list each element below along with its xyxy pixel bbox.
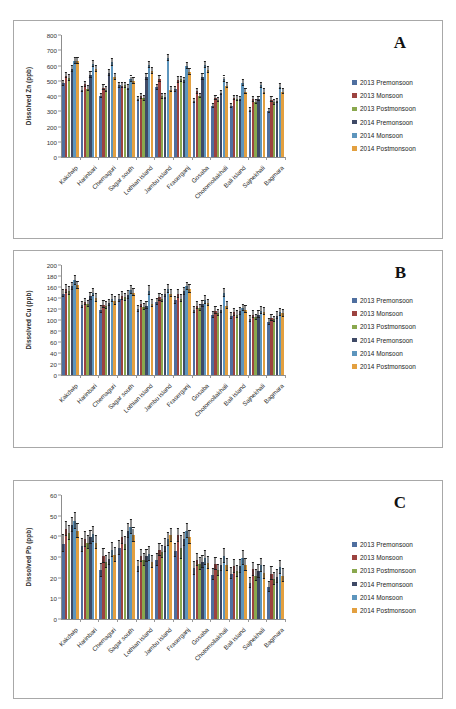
- legend-label: 2013 Postmonsoon: [360, 105, 416, 112]
- x-tick-mark: [117, 157, 118, 160]
- y-tick-label: 0: [31, 154, 57, 161]
- x-tick-mark: [98, 375, 99, 378]
- legend-item[interactable]: 2013 Monsoon: [352, 552, 416, 563]
- bar-b: [132, 293, 134, 376]
- bar-group: [229, 495, 248, 619]
- x-tick-mark: [98, 619, 99, 622]
- bar-group: [117, 495, 136, 619]
- error-cap-top: [132, 288, 134, 289]
- error-bar: [130, 520, 131, 534]
- legend-item[interactable]: 2014 Premonsoon: [352, 335, 416, 346]
- error-cap-bottom: [279, 573, 281, 574]
- y-tick-label: 140: [31, 295, 57, 302]
- legend-b: 2013 Premonsoon2013 Monsoon2013 Postmons…: [352, 295, 416, 374]
- error-cap-top: [170, 289, 172, 290]
- error-cap-top: [223, 288, 225, 289]
- error-cap-top: [76, 281, 78, 282]
- legend-item[interactable]: 2014 Monsoon: [352, 130, 416, 141]
- bar-a: [113, 77, 115, 157]
- error-cap-top: [270, 96, 272, 97]
- legend-item[interactable]: 2014 Postmonsoon: [352, 361, 416, 372]
- bar-a: [244, 92, 246, 157]
- legend-label: 2014 Postmonsoon: [360, 145, 416, 152]
- error-cap-top: [65, 72, 67, 73]
- x-tick-mark: [285, 375, 286, 378]
- legend-swatch-icon: [352, 364, 357, 369]
- error-cap-bottom: [244, 312, 246, 313]
- error-cap-top: [151, 67, 153, 68]
- error-cap-top: [223, 75, 225, 76]
- legend-item[interactable]: 2013 Premonsoon: [352, 539, 416, 550]
- error-cap-bottom: [263, 314, 265, 315]
- error-bar: [74, 513, 75, 529]
- error-cap-top: [185, 282, 187, 283]
- legend-item[interactable]: 2013 Premonsoon: [352, 77, 416, 88]
- error-cap-bottom: [95, 548, 97, 549]
- bar-group: [192, 495, 211, 619]
- bar-b: [207, 303, 209, 375]
- legend-item[interactable]: 2013 Postmonsoon: [352, 565, 416, 576]
- error-cap-top: [142, 303, 144, 304]
- bar-group: [173, 495, 192, 619]
- error-bar: [90, 531, 91, 545]
- error-cap-bottom: [170, 541, 172, 542]
- legend-item[interactable]: 2014 Postmonsoon: [352, 143, 416, 154]
- bar-group: [266, 35, 285, 157]
- error-cap-top: [132, 527, 134, 528]
- bar-group: [80, 265, 99, 375]
- chart-panel-a: A Dissolved Zn (ppb)01002003004005006007…: [13, 20, 443, 239]
- legend-item[interactable]: 2014 Premonsoon: [352, 579, 416, 590]
- y-tick-label: 40: [31, 350, 57, 357]
- y-tick-label: 60: [31, 492, 57, 499]
- legend-item[interactable]: 2014 Premonsoon: [352, 117, 416, 128]
- legend-item[interactable]: 2013 Premonsoon: [352, 295, 416, 306]
- legend-item[interactable]: 2013 Postmonsoon: [352, 103, 416, 114]
- x-tick-mark: [80, 619, 81, 622]
- error-cap-bottom: [226, 570, 228, 571]
- error-cap-bottom: [132, 295, 134, 296]
- error-cap-top: [270, 566, 272, 567]
- x-tick-mark: [248, 157, 249, 160]
- legend-item[interactable]: 2014 Monsoon: [352, 592, 416, 603]
- error-cap-top: [84, 531, 86, 532]
- error-cap-top: [244, 88, 246, 89]
- legend-item[interactable]: 2014 Monsoon: [352, 348, 416, 359]
- bar-group: [136, 495, 155, 619]
- error-cap-bottom: [207, 72, 209, 73]
- x-tick-mark: [192, 375, 193, 378]
- error-cap-top: [89, 530, 91, 531]
- x-tick-mark: [154, 157, 155, 160]
- bar-b: [244, 310, 246, 375]
- error-cap-bottom: [114, 561, 116, 562]
- error-cap-top: [140, 300, 142, 301]
- legend-item[interactable]: 2013 Monsoon: [352, 308, 416, 319]
- legend-swatch-icon: [352, 555, 357, 560]
- error-cap-top: [102, 548, 104, 549]
- legend-swatch-icon: [352, 608, 357, 613]
- y-tick-label: 30: [31, 554, 57, 561]
- error-bar: [183, 533, 184, 547]
- bar-a: [132, 81, 134, 157]
- legend-swatch-icon: [352, 146, 357, 151]
- error-cap-top: [167, 54, 169, 55]
- error-bar: [133, 529, 134, 543]
- figure-root: A Dissolved Zn (ppb)01002003004005006007…: [0, 0, 456, 709]
- legend-label: 2013 Postmonsoon: [360, 567, 416, 574]
- error-cap-top: [263, 88, 265, 89]
- error-cap-top: [92, 526, 94, 527]
- error-cap-top: [76, 523, 78, 524]
- error-cap-bottom: [92, 541, 94, 542]
- legend-item[interactable]: 2014 Postmonsoon: [352, 605, 416, 616]
- y-tick-label: 120: [31, 306, 57, 313]
- x-tick-mark: [210, 375, 211, 378]
- legend-item[interactable]: 2013 Postmonsoon: [352, 321, 416, 332]
- x-tick-mark: [117, 619, 118, 622]
- y-tick-label: 200: [31, 123, 57, 130]
- error-bar: [93, 527, 94, 541]
- legend-label: 2013 Monsoon: [360, 92, 403, 99]
- plot-c: Dissolved Pb (ppb)0102030405060KakdwipHa…: [14, 481, 442, 698]
- legend-item[interactable]: 2013 Monsoon: [352, 90, 416, 101]
- error-cap-bottom: [148, 560, 150, 561]
- bar-group: [248, 265, 267, 375]
- error-cap-bottom: [223, 562, 225, 563]
